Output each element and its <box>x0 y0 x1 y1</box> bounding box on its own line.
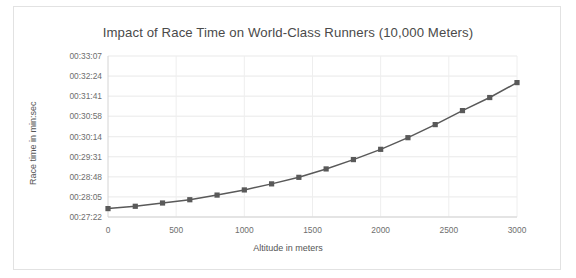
gridlines <box>108 56 517 217</box>
data-point-marker <box>351 157 356 162</box>
data-point-marker <box>460 108 465 113</box>
plot-area <box>14 7 562 271</box>
data-point-marker <box>296 175 301 180</box>
data-point-marker <box>269 181 274 186</box>
data-point-marker <box>133 204 138 209</box>
data-point-marker <box>242 187 247 192</box>
data-point-marker <box>214 192 219 197</box>
chart-container: Impact of Race Time on World-Class Runne… <box>13 6 561 270</box>
data-point-marker <box>405 135 410 140</box>
data-point-marker <box>487 95 492 100</box>
data-point-marker <box>433 122 438 127</box>
data-point-marker <box>324 166 329 171</box>
data-point-marker <box>514 80 519 85</box>
data-point-marker <box>378 147 383 152</box>
data-point-marker <box>105 206 110 211</box>
data-point-marker <box>160 200 165 205</box>
data-point-marker <box>187 197 192 202</box>
